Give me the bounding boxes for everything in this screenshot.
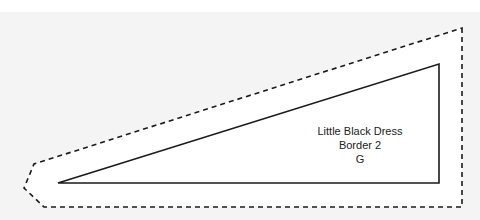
- pattern-piece-diagram: [0, 0, 480, 220]
- piece-name-label: Little Black Dress: [285, 124, 435, 138]
- piece-number-label: Border 2: [285, 138, 435, 152]
- piece-grade-label: G: [285, 152, 435, 166]
